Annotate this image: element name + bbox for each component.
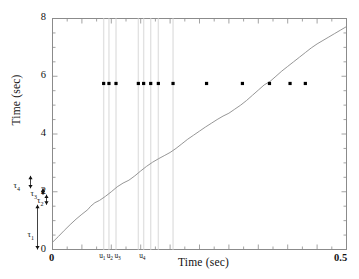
x-annotation-u1: u1 [99,251,105,261]
x-annotation-u3: u3 [114,251,120,261]
y-tick-label-0: 0 [28,243,46,254]
y-annotation-tau2: τ2 [37,195,43,207]
chart-figure: Time (sec) 0 2 4 6 8 0 0.5 Time (sec) u1… [0,0,359,279]
event-marker-dots [102,82,307,85]
x-tick-label-min: 0 [49,252,54,263]
cumulative-time-curve [53,27,347,243]
chart-canvas [0,0,359,279]
y-axis-label: Time (sec) [10,40,22,160]
x-annotation-u2: u2 [107,251,113,261]
x-tick-label-max: 0.5 [334,252,347,263]
x-annotation-u4: u4 [139,251,145,261]
y-annotation-tau1: τ1 [28,229,34,241]
y-tick-label-4: 4 [28,127,46,138]
y-tick-label-8: 8 [28,11,46,22]
vertical-guide-lines [104,19,173,250]
y-tick-label-6: 6 [28,69,46,80]
x-axis-label: Time (sec) [178,256,229,268]
axis-ticks [53,19,347,250]
y-annotation-tau3: τ3 [31,188,37,200]
y-annotation-tau4: τ4 [14,180,20,192]
